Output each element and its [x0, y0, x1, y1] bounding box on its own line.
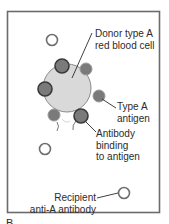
label-line: to antigen [96, 151, 140, 163]
antibody-arc-icon [73, 121, 76, 130]
label-line: binding [96, 140, 140, 152]
label-line: red blood cell [95, 40, 154, 52]
panel-letter: B [6, 217, 13, 224]
label-line: anti-A antibody [27, 204, 96, 216]
antigen-bound-icon [74, 109, 88, 123]
label-recipient-antibody: Recipient anti-A antibody [35, 192, 96, 215]
leader-line-recipient [97, 193, 118, 198]
antigen-icon [80, 63, 92, 75]
label-line: Type A [117, 101, 150, 113]
label-line: Antibody [96, 128, 140, 140]
free-antibody-icon [40, 144, 51, 155]
leader-line-binding [86, 122, 96, 132]
label-type-a-antigen: Type A antigen [117, 101, 150, 124]
leader-line-type-a [102, 99, 116, 108]
label-line: Recipient [35, 192, 96, 204]
label-antibody-binding: Antibody binding to antigen [96, 128, 140, 163]
label-donor-red-blood-cell: Donor type A red blood cell [95, 28, 154, 51]
free-antibody-icon [47, 35, 58, 46]
antigen-bound-icon [38, 82, 52, 96]
antigen-icon [48, 109, 60, 121]
recipient-antibody-icon [119, 188, 130, 199]
label-line: antigen [117, 113, 150, 125]
label-line: Donor type A [95, 28, 154, 40]
antibody-arc-icon [57, 122, 59, 131]
antibody-arc-icon [62, 119, 70, 122]
antigen-bound-icon [55, 59, 69, 73]
